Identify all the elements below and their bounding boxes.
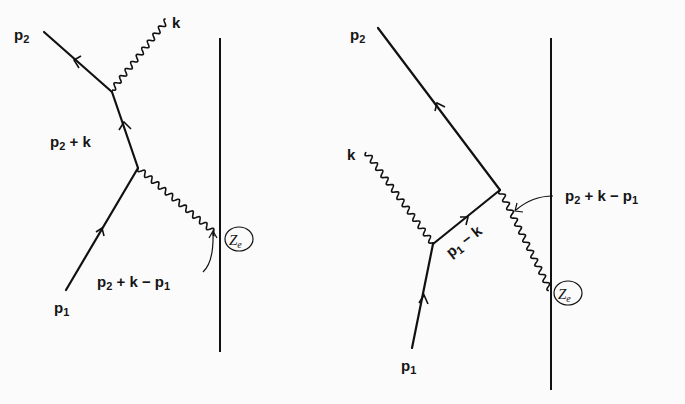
right-label-p2: p2: [350, 26, 365, 45]
left-label-p2-plus-k: p2 + k: [50, 133, 91, 152]
left-internal-electron-line: [112, 92, 138, 168]
right-virtual-photon-wave: [499, 190, 550, 291]
right-outgoing-electron-line: [378, 28, 500, 190]
svg-text:Ze: Ze: [558, 286, 571, 304]
left-diagram: p2 k p2 + k p2 + k − p1 p1 Ze: [14, 14, 253, 352]
left-label-p1: p1: [54, 299, 69, 318]
right-label-p1-minus-k: p1 − k: [442, 221, 486, 261]
right-label-momentum-transfer: p2 + k − p1: [565, 187, 638, 206]
left-nucleus-charge-badge: Ze: [225, 227, 253, 251]
left-photon-wave: [112, 19, 166, 90]
left-outgoing-electron-line: [44, 32, 112, 92]
left-transfer-pointer: [203, 232, 213, 272]
bremsstrahlung-feynman-diagrams: p2 k p2 + k p2 + k − p1 p1 Ze p2 k p1 − …: [0, 0, 685, 404]
diagram-svg: p2 k p2 + k p2 + k − p1 p1 Ze p2 k p1 − …: [0, 0, 685, 404]
right-nucleus-charge-badge: Ze: [554, 281, 582, 305]
left-label-k: k: [172, 14, 181, 31]
left-label-p2: p2: [14, 26, 29, 45]
left-label-momentum-transfer: p2 + k − p1: [97, 273, 170, 292]
svg-text:Ze: Ze: [229, 232, 242, 250]
right-label-k: k: [347, 146, 356, 163]
right-label-p1: p1: [401, 357, 416, 376]
right-transfer-pointer: [516, 196, 553, 210]
right-photon-wave: [365, 152, 435, 243]
left-virtual-photon-wave: [138, 168, 215, 236]
right-diagram: p2 k p1 − k p2 + k − p1 p1 Ze: [347, 26, 638, 390]
